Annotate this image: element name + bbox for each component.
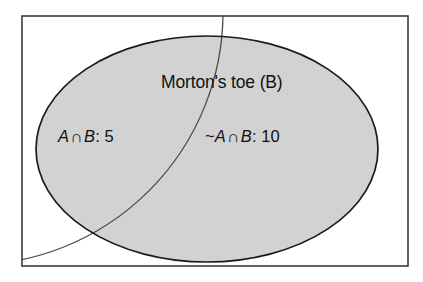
set-b-label: Morton's toe (B): [161, 74, 283, 92]
region-left-symbol-a: A: [58, 127, 69, 145]
region-right-symbol-a: A: [215, 127, 226, 145]
region-label-a-intersect-b: A∩B: 5: [58, 128, 114, 145]
region-left-separator: :: [95, 127, 100, 145]
region-right-count: 10: [261, 127, 280, 145]
region-right-separator: :: [252, 127, 257, 145]
region-right-operator: ∩: [226, 127, 241, 145]
venn-diagram-figure: Morton's toe (B) A∩B: 5 ~A∩B: 10: [0, 0, 423, 282]
region-right-tilde: ~: [205, 127, 215, 145]
region-right-symbol-b: B: [241, 127, 252, 145]
region-left-symbol-b: B: [84, 127, 95, 145]
region-left-count: 5: [105, 127, 114, 145]
region-label-not-a-intersect-b: ~A∩B: 10: [205, 128, 280, 145]
set-b-ellipse-fill: [36, 36, 378, 262]
region-left-operator: ∩: [69, 127, 84, 145]
